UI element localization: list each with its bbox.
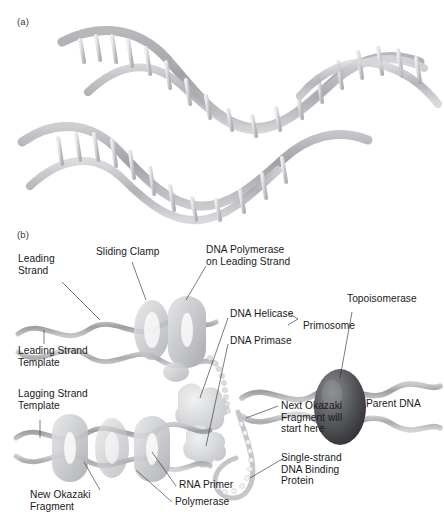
label-dna-polymerase-leading: DNA Polymerase on Leading Strand (206, 244, 290, 267)
label-parent-dna: Parent DNA (366, 398, 421, 410)
label-leading-strand-template: Leading Strand Template (18, 345, 88, 368)
label-leading-strand: Leading Strand (18, 253, 55, 276)
label-dna-helicase: DNA Helicase (230, 308, 293, 320)
label-topoisomerase: Topoisomerase (347, 293, 417, 305)
label-dna-primase: DNA Primase (230, 335, 292, 347)
label-sliding-clamp: Sliding Clamp (96, 246, 160, 258)
label-lagging-strand-template: Lagging Strand Template (18, 388, 88, 411)
label-rna-primer: RNA Primer (179, 479, 233, 491)
label-ssb-protein: Single-strand DNA Binding Protein (281, 452, 342, 487)
dna-replication-figure: (a) (b) (0, 0, 444, 531)
panel-a-helix (22, 30, 438, 220)
lagging-strand-duplex (16, 414, 210, 482)
label-primosome: Primosome (303, 320, 355, 332)
label-next-okazaki: Next Okazaki Fragment will start here (281, 400, 342, 435)
label-new-okazaki: New Okazaki Fragment (30, 489, 91, 512)
sliding-clamp-shape (134, 300, 170, 360)
label-polymerase: Polymerase (175, 496, 229, 508)
dna-polymerase-leading-shape (163, 296, 206, 382)
